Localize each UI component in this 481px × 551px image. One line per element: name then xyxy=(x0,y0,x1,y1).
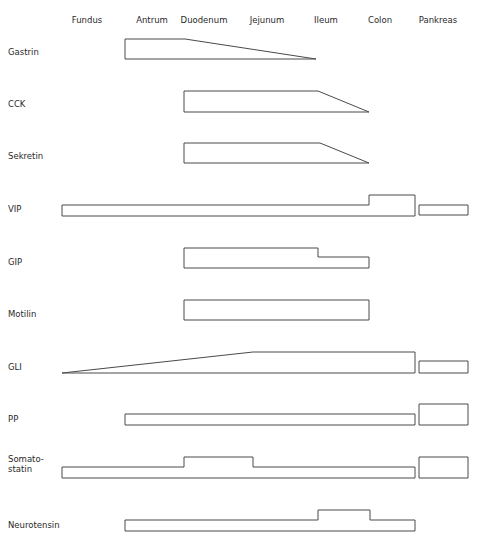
distribution-pp xyxy=(125,404,468,425)
gut-distribution-shape xyxy=(125,414,415,425)
pancreas-distribution-shape xyxy=(419,205,468,215)
gut-distribution-shape xyxy=(125,39,316,59)
distribution-vip xyxy=(62,195,468,216)
distribution-gip xyxy=(184,248,369,268)
distribution-gastrin xyxy=(125,39,316,59)
distribution-gli xyxy=(62,352,468,373)
gut-distribution-shape xyxy=(125,510,415,531)
gut-distribution-shape xyxy=(62,352,415,373)
gut-distribution-shape xyxy=(62,457,415,478)
gut-distribution-shape xyxy=(184,91,369,112)
gut-distribution-shape xyxy=(62,195,415,216)
distribution-cck xyxy=(184,91,369,112)
distribution-neurotensin xyxy=(125,510,415,531)
gut-distribution-shape xyxy=(184,248,369,268)
distribution-sekretin xyxy=(184,143,369,163)
hormone-distribution-diagram xyxy=(0,0,481,551)
pancreas-distribution-shape xyxy=(419,404,468,425)
distribution-motilin xyxy=(184,300,369,320)
gut-distribution-shape xyxy=(184,143,369,163)
pancreas-distribution-shape xyxy=(419,361,468,373)
distribution-somatostatin xyxy=(62,457,468,478)
pancreas-distribution-shape xyxy=(419,457,468,478)
gut-distribution-shape xyxy=(184,300,369,320)
